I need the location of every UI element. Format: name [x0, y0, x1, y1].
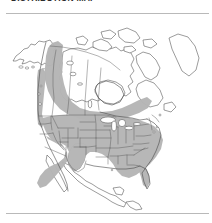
- border-newengland-north: [152, 115, 159, 122]
- island-aleutian-1: [19, 66, 23, 68]
- lake-huron: [118, 119, 125, 126]
- lake-athabasca: [77, 83, 82, 85]
- lake-winnipeg: [88, 100, 92, 108]
- region-arctic-island-a: [101, 30, 116, 39]
- island-gulf-detail: [111, 169, 113, 171]
- divider-bottom: [6, 213, 209, 214]
- region-yucatan: [113, 187, 124, 195]
- island-cape-cod: [156, 126, 158, 128]
- lake-great-bear: [67, 61, 74, 65]
- lake-erie: [125, 126, 133, 130]
- region-central-america: [126, 201, 142, 210]
- figure-panel: DISTRIBUTION MAP: [0, 0, 212, 223]
- region-baffin-island: [136, 52, 160, 80]
- divider-top: [6, 13, 209, 14]
- island-pei: [159, 114, 161, 116]
- lake-great-slave: [70, 72, 76, 76]
- island-aleutian-2: [25, 67, 29, 69]
- lake-michigan: [112, 121, 117, 131]
- island-long-island: [153, 131, 155, 133]
- region-ellesmere-island: [118, 28, 140, 43]
- lake-ontario: [134, 123, 141, 126]
- figure-caption-text: DISTRIBUTION MAP: [11, 0, 96, 3]
- island-aleutian-3: [32, 66, 35, 68]
- north-america-map: [0, 16, 212, 211]
- island-haida-detail: [40, 85, 42, 87]
- region-banks-island: [76, 36, 88, 45]
- island-vancouver: [39, 103, 42, 106]
- map-container: [0, 16, 212, 211]
- island-queen-charlotte: [38, 93, 40, 95]
- figure-caption-clipped: DISTRIBUTION MAP: [0, 0, 212, 7]
- region-greenland-edge: [169, 34, 199, 76]
- region-arctic-island-b: [143, 39, 157, 48]
- region-newfoundland: [164, 102, 176, 112]
